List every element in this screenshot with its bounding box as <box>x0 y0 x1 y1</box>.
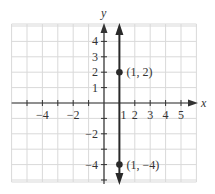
x-axis-label: x <box>200 96 207 110</box>
x-tick-label: 4 <box>163 108 169 122</box>
axes <box>12 23 198 184</box>
x-tick-label: 1 <box>120 108 126 122</box>
y-tick-label: −4 <box>85 158 98 172</box>
y-tick-label: 1 <box>92 81 98 95</box>
line-arrow-up-icon <box>115 23 123 35</box>
y-tick-label: −2 <box>85 127 98 141</box>
x-tick-label: −4 <box>36 108 49 122</box>
point-label: (1, 2) <box>126 65 152 79</box>
x-tick-label: 2 <box>132 108 138 122</box>
y-axis-label: y <box>100 6 107 20</box>
point-label: (1, −4) <box>126 158 159 172</box>
y-tick-label: 4 <box>92 34 98 48</box>
point-marker <box>116 161 123 168</box>
coordinate-plane: −4−2123454321−2−4 (1, 2)(1, −4) x y <box>0 0 215 194</box>
x-tick-label: 5 <box>178 108 184 122</box>
axis-ticks: −4−2123454321−2−4 <box>27 34 184 180</box>
y-tick-label: 2 <box>92 65 98 79</box>
y-tick-label: 3 <box>92 50 98 64</box>
point-marker <box>116 69 123 76</box>
x-tick-label: 3 <box>147 108 153 122</box>
line-arrow-down-icon <box>115 173 123 185</box>
x-tick-label: −2 <box>67 108 80 122</box>
vertical-line-x-equals-1 <box>115 23 123 185</box>
